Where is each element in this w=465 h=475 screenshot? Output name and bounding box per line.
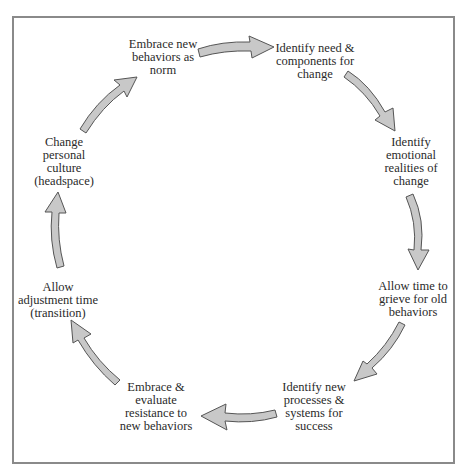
arrow-identify-emotional-to-allow-grieve: [406, 194, 429, 270]
node-line: (headspace): [19, 175, 109, 188]
node-line: success: [269, 420, 359, 433]
node-allow-grieve: Allow time to grieve for old behaviors: [368, 280, 458, 319]
node-allow-adjustment: Allow adjustment time (transition): [8, 281, 108, 320]
node-change-culture: Change personal culture (headspace): [19, 136, 109, 188]
node-identify-emotional: Identify emotional realities of change: [366, 136, 456, 188]
arrow-change-culture-to-embrace-norm: [80, 77, 137, 133]
node-line: (transition): [8, 307, 108, 320]
arrow-identify-processes-to-embrace-resistance: [201, 404, 277, 430]
arrow-allow-adjustment-to-change-culture: [45, 192, 66, 268]
node-line: norm: [113, 64, 213, 77]
arrow-allow-grieve-to-identify-processes: [354, 322, 405, 381]
node-embrace-resistance: Embrace & evaluate resistance to new beh…: [106, 381, 206, 433]
cycle-arrows: .arr { fill: #c8c8c8; stroke: #555555; s…: [0, 0, 465, 475]
node-line: new behaviors: [106, 420, 206, 433]
node-line: change: [366, 175, 456, 188]
node-embrace-norm: Embrace new behaviors as norm: [113, 38, 213, 77]
node-line: change: [265, 68, 365, 81]
arrow-embrace-resistance-to-allow-adjustment: [71, 320, 120, 385]
node-line: behaviors: [368, 306, 458, 319]
node-identify-need: Identify need & components for change: [265, 42, 365, 81]
node-identify-processes: Identify new processes & systems for suc…: [269, 381, 359, 433]
